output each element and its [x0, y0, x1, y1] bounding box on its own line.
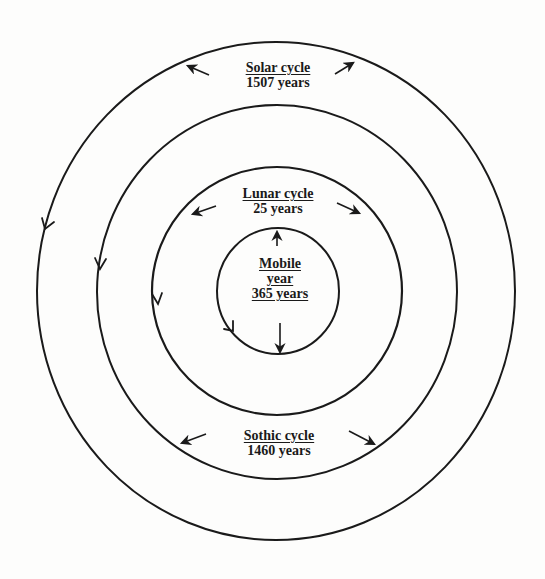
- mobile-year-label: Mobile year 365 years: [228, 256, 332, 301]
- sothic-left-arrow-icon: [182, 434, 206, 443]
- lunar-cycle-duration: 25 years: [218, 201, 338, 216]
- sothic-cycle-duration: 1460 years: [214, 443, 344, 458]
- sothic-right-arrow-icon: [349, 431, 374, 444]
- lunar-cycle-label: Lunar cycle 25 years: [218, 186, 338, 216]
- cycles-diagram: Solar cycle 1507 years Lunar cycle 25 ye…: [0, 0, 545, 579]
- mobile-year-title-line2: year: [228, 271, 332, 286]
- solar-cycle-duration: 1507 years: [218, 75, 338, 90]
- sothic-cycle-label: Sothic cycle 1460 years: [214, 428, 344, 458]
- sothic-cycle-title: Sothic cycle: [214, 428, 344, 443]
- mobile-year-duration: 365 years: [228, 286, 332, 301]
- lunar-cycle-title: Lunar cycle: [218, 186, 338, 201]
- solar-cycle-title: Solar cycle: [218, 60, 338, 75]
- lunar-right-arrow-icon: [337, 203, 359, 213]
- solar-cycle-label: Solar cycle 1507 years: [218, 60, 338, 90]
- mobile-year-title-line1: Mobile: [228, 256, 332, 271]
- solar-left-arrow-icon: [188, 66, 209, 75]
- lunar-left-arrow-icon: [193, 206, 216, 214]
